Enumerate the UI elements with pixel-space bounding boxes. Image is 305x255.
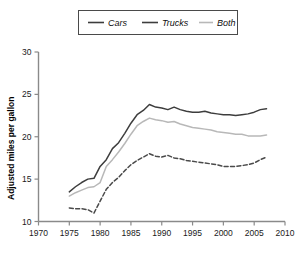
x-tick-label: 1995 bbox=[183, 228, 202, 238]
x-tick-label: 2005 bbox=[245, 228, 264, 238]
x-tick-label: 2010 bbox=[276, 228, 295, 238]
x-tick-label: 1975 bbox=[60, 228, 79, 238]
x-tick-label: 1980 bbox=[91, 228, 110, 238]
y-tick-label: 25 bbox=[22, 89, 32, 99]
x-tick-label: 2000 bbox=[214, 228, 233, 238]
mpg-line-chart: Cars Trucks Both 1015202530 197019751980… bbox=[0, 0, 305, 255]
series-line-cars bbox=[69, 105, 266, 192]
chart-legend: Cars Trucks Both bbox=[79, 11, 238, 35]
x-tick-label: 1990 bbox=[152, 228, 171, 238]
chart-axes: 1015202530 19701975198019851990199520002… bbox=[6, 47, 295, 238]
legend-label-trucks: Trucks bbox=[162, 18, 189, 28]
x-axis-ticks: 197019751980198519901995200020052010 bbox=[29, 222, 295, 238]
y-tick-label: 10 bbox=[22, 217, 32, 227]
chart-canvas: Cars Trucks Both 1015202530 197019751980… bbox=[0, 0, 305, 255]
y-tick-label: 20 bbox=[22, 132, 32, 142]
chart-series bbox=[69, 105, 266, 213]
y-tick-label: 30 bbox=[22, 47, 32, 57]
y-axis-ticks: 1015202530 bbox=[22, 47, 38, 227]
x-tick-label: 1970 bbox=[29, 228, 48, 238]
legend-label-cars: Cars bbox=[108, 18, 128, 28]
y-axis-title: Adjusted miles per gallon bbox=[6, 97, 16, 200]
legend-label-both: Both bbox=[217, 18, 236, 28]
y-tick-label: 15 bbox=[22, 174, 32, 184]
series-line-both bbox=[69, 118, 266, 196]
x-tick-label: 1985 bbox=[121, 228, 140, 238]
